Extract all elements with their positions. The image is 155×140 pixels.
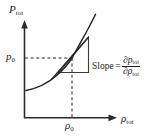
- figure-container: Ptot ρtot p0 ρ0 Slope = ∂ptot ∂ρtot: [0, 0, 155, 140]
- y-tick-symbol: p: [6, 50, 12, 62]
- slope-annotation: Slope = ∂ptot ∂ρtot: [92, 56, 140, 77]
- y-axis-label: Ptot: [9, 4, 23, 15]
- y-tick-subscript: 0: [12, 56, 16, 63]
- slope-annotation-equals: =: [115, 62, 120, 72]
- equation-of-state-curve-path: [26, 15, 96, 91]
- x-axis-tick-label: ρ0: [65, 120, 74, 131]
- x-tick-subscript: 0: [70, 125, 74, 132]
- fraction-denominator: ∂ρtot: [122, 67, 140, 77]
- curve-group: [26, 15, 96, 91]
- y-axis-arrowhead: [21, 20, 28, 29]
- y-axis-label-subscript: tot: [16, 9, 24, 16]
- denominator-subscript: tot: [132, 71, 139, 77]
- y-axis-label-symbol: P: [9, 3, 16, 15]
- tangent-group: [52, 37, 89, 80]
- fraction-numerator: ∂ptot: [122, 56, 140, 66]
- y-axis-tick-label: p0: [6, 51, 15, 62]
- slope-annotation-word: Slope: [92, 62, 114, 72]
- tangent-line-path: [52, 37, 89, 80]
- x-axis-label-subscript: tot: [126, 118, 134, 125]
- x-axis-arrowhead: [109, 114, 118, 121]
- x-axis-label: ρtot: [121, 113, 134, 124]
- numerator-subscript: tot: [132, 59, 139, 65]
- partial-derivative-fraction: ∂ptot ∂ρtot: [122, 56, 140, 77]
